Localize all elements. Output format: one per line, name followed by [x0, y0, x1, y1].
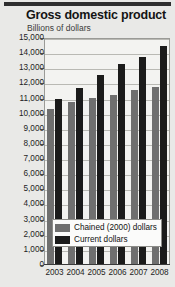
y-axis-tick-label: 12,000 — [6, 79, 44, 87]
chart-title: Gross domestic product — [26, 9, 172, 22]
chart-subtitle: Billions of dollars — [27, 23, 173, 33]
y-axis-tick-label: 14,000 — [6, 49, 44, 57]
legend-item-current: Current dollars — [55, 234, 161, 245]
y-axis-tick-label: 0 — [6, 261, 44, 269]
gdp-bar-chart-figure: Gross domestic product Billions of dolla… — [0, 0, 175, 287]
y-axis-tick-mark — [40, 265, 44, 266]
y-axis-tick-label: 11,000 — [6, 95, 44, 103]
x-axis-tick-label: 2008 — [149, 268, 170, 278]
x-axis-tick-label: 2006 — [107, 268, 128, 278]
y-axis-tick-label: 4,000 — [6, 200, 44, 208]
y-axis-tick-label: 1,000 — [6, 246, 44, 254]
legend-label-chained: Chained (2000) dollars — [74, 223, 157, 232]
legend-swatch-chained-icon — [55, 224, 70, 232]
y-axis-tick-label: 15,000 — [6, 34, 44, 42]
chart-legend: Chained (2000) dollars Current dollars — [52, 219, 162, 247]
y-axis-tick-label: 10,000 — [6, 110, 44, 118]
x-axis-tick-label: 2005 — [86, 268, 107, 278]
legend-item-chained: Chained (2000) dollars — [55, 222, 161, 233]
x-axis-tick-label: 2007 — [128, 268, 149, 278]
y-axis: 15,00014,00013,00012,00011,00010,0009,00… — [0, 0, 44, 287]
x-axis-tick-label: 2003 — [44, 268, 65, 278]
y-axis-tick-label: 13,000 — [6, 64, 44, 72]
legend-label-current: Current dollars — [74, 235, 128, 244]
y-axis-tick-label: 2,000 — [6, 231, 44, 239]
y-axis-tick-label: 8,000 — [6, 140, 44, 148]
x-axis-line — [44, 264, 170, 265]
x-axis: 200320042005200620072008 — [44, 268, 170, 282]
y-axis-tick-label: 3,000 — [6, 216, 44, 224]
y-axis-tick-label: 7,000 — [6, 155, 44, 163]
y-axis-tick-label: 9,000 — [6, 125, 44, 133]
y-axis-tick-label: 6,000 — [6, 170, 44, 178]
y-axis-tick-label: 5,000 — [6, 185, 44, 193]
legend-swatch-current-icon — [55, 236, 70, 244]
x-axis-tick-label: 2004 — [65, 268, 86, 278]
